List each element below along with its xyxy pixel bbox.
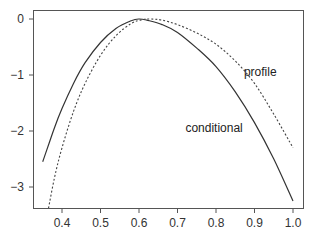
y-tick-label: −1 [10, 68, 24, 82]
likelihood-chart: 0−1−2−3 0.40.50.60.70.80.91.0 profile co… [0, 0, 313, 235]
y-tick-label: −2 [10, 124, 24, 138]
x-tick-label: 0.8 [208, 216, 225, 230]
profile-label: profile [244, 65, 277, 79]
x-tick-label: 0.6 [131, 216, 148, 230]
x-tick-label: 0.4 [54, 216, 71, 230]
x-tick-label: 0.9 [246, 216, 263, 230]
profile-line [49, 19, 294, 208]
y-axis: 0−1−2−3 [10, 12, 33, 194]
y-tick-label: −3 [10, 180, 24, 194]
conditional-label: conditional [185, 121, 242, 135]
x-tick-label: 1.0 [285, 216, 302, 230]
plot-frame [34, 11, 304, 209]
x-axis: 0.40.50.60.70.80.91.0 [54, 209, 302, 231]
series-lines [43, 19, 293, 208]
conditional-line [43, 19, 293, 201]
x-tick-label: 0.5 [92, 216, 109, 230]
x-tick-label: 0.7 [169, 216, 186, 230]
y-tick-label: 0 [17, 12, 24, 26]
